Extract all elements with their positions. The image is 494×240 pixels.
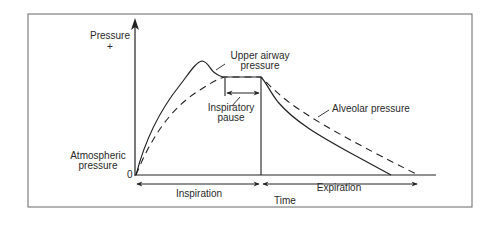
x-axis-label: Time	[265, 195, 305, 206]
y-axis-label: Pressure	[87, 30, 133, 41]
alveolar-pressure-curve	[136, 77, 418, 175]
baseline-label-line2: pressure	[64, 160, 132, 171]
alveolar-leader	[318, 110, 329, 117]
pause-label-line2: pause	[196, 112, 266, 123]
expiration-label: Expiration	[300, 182, 378, 193]
inspiration-label: Inspiration	[160, 188, 238, 199]
y-axis-sign: +	[87, 41, 133, 52]
upper-airway-label-line2: pressure	[220, 60, 300, 71]
origin-label: 0	[127, 169, 133, 180]
alveolar-label: Alveolar pressure	[332, 103, 410, 114]
